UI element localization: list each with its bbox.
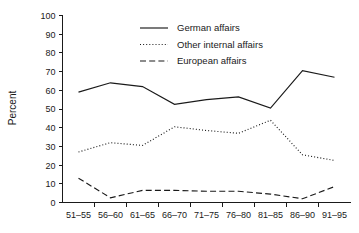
- legend-label: European affairs: [177, 55, 247, 66]
- y-tick-label: 20: [45, 161, 55, 171]
- x-tick-label: 66–70: [162, 210, 187, 220]
- y-tick-label: 80: [45, 48, 55, 58]
- line-chart: Percent 0102030405060708090100 51–5556–6…: [0, 0, 359, 233]
- y-tick-label: 90: [45, 30, 55, 40]
- chart-container: Percent 0102030405060708090100 51–5556–6…: [0, 0, 359, 233]
- y-tick-label: 50: [45, 104, 55, 114]
- x-tick-label: 61–65: [130, 210, 155, 220]
- x-tick-label: 51–55: [66, 210, 91, 220]
- y-tick-label: 0: [50, 198, 55, 208]
- y-tick-label: 60: [45, 86, 55, 96]
- x-tick-label: 71–75: [194, 210, 219, 220]
- y-tick-label: 10: [45, 179, 55, 189]
- x-tick-label: 91–95: [322, 210, 347, 220]
- x-tick-label: 86–90: [290, 210, 315, 220]
- x-tick-label: 76–80: [226, 210, 251, 220]
- legend-label: Other internal affairs: [177, 39, 263, 50]
- x-tick-label: 56–60: [98, 210, 123, 220]
- y-tick-label: 40: [45, 123, 55, 133]
- y-tick-label: 30: [45, 142, 55, 152]
- y-axis-title: Percent: [7, 91, 18, 126]
- x-tick-label: 81–85: [258, 210, 283, 220]
- legend-label: German affairs: [177, 22, 240, 33]
- y-tick-label: 70: [45, 67, 55, 77]
- y-tick-label: 100: [40, 11, 55, 21]
